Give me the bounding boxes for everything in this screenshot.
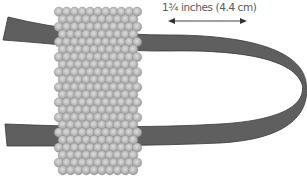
measurement-arrow — [168, 18, 247, 24]
diagram-stage: 1¾ inches (4.4 cm) — [0, 0, 307, 180]
diagram-canvas — [0, 0, 307, 180]
measurement-label: 1¾ inches (4.4 cm) — [162, 1, 254, 13]
strap — [3, 17, 307, 146]
bead-panel — [54, 7, 142, 175]
bead — [129, 166, 138, 175]
